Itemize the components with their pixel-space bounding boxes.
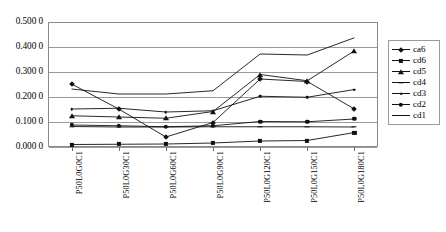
legend-label: ca6 [411,45,426,54]
data-point-cd3 [306,96,309,99]
data-point-ca6 [69,81,75,87]
legend-marker-triangle-icon [391,66,411,77]
legend-item-cd1[interactable]: cd1 [391,110,437,121]
data-point-cd3 [117,107,120,110]
legend-item-cd2[interactable]: cd2 [391,99,437,110]
data-point-cd5 [304,78,310,83]
data-point-cd3 [353,88,356,91]
data-point-cd3 [212,109,215,112]
data-point-cd4 [352,126,357,127]
data-point-cd5 [163,116,169,121]
legend-marker-diamond-icon [391,44,411,55]
legend-item-cd4[interactable]: cd4 [391,77,437,88]
legend-marker-square-icon [391,55,411,66]
markers-layer [0,0,446,232]
data-point-cd6 [164,142,168,146]
legend-item-cd5[interactable]: cd5 [391,66,437,77]
legend-item-ca6[interactable]: ca6 [391,44,437,55]
data-point-cd3 [165,111,168,114]
data-point-cd6 [211,141,215,145]
legend-item-cd6[interactable]: cd6 [391,55,437,66]
data-point-ca6 [163,134,169,140]
data-point-cd6 [352,130,356,134]
legend-marker-dot-icon [391,88,411,99]
data-point-cd2 [305,120,309,124]
data-point-cd5 [116,114,122,119]
data-point-cd6 [305,138,309,142]
data-point-cd5 [351,48,357,53]
data-point-cd5 [257,72,263,77]
data-point-cd6 [69,142,73,146]
data-point-cd2 [164,125,168,129]
data-point-cd6 [258,139,262,143]
legend-label: cd5 [411,67,426,76]
chart-legend: ca6cd6cd5cd4cd3cd2cd1 [388,40,440,125]
data-point-cd3 [70,108,73,111]
data-point-ca6 [352,106,358,112]
legend-label: cd2 [411,100,426,109]
legend-marker-none-icon [391,110,411,121]
legend-label: cd3 [411,89,426,98]
data-point-cd5 [69,113,75,118]
legend-label: cd4 [411,78,426,87]
data-point-cd4 [258,126,263,127]
data-point-cd6 [117,142,121,146]
chart-container: 0.500 00.400 00.300 00.200 00.100 00.000… [0,0,446,232]
legend-item-cd3[interactable]: cd3 [391,88,437,99]
legend-label: cd1 [411,111,426,120]
data-point-cd2 [258,119,262,123]
legend-label: cd6 [411,56,426,65]
data-point-cd2 [352,117,356,121]
legend-marker-x-icon [391,77,411,88]
data-point-cd4 [305,126,310,127]
data-point-ca6 [257,76,263,82]
data-point-cd3 [259,95,262,98]
legend-marker-circle-icon [391,99,411,110]
